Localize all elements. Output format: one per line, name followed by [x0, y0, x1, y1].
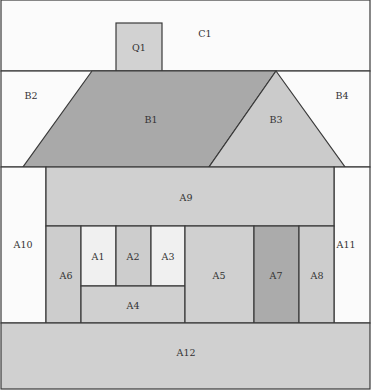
region-label-a8: A8: [310, 270, 324, 281]
house-diagram: C1Q1B2B4B1B3A10A11A9A6A1A2A3A4A5A7A8A12: [0, 0, 375, 392]
region-label-a5: A5: [212, 270, 226, 281]
region-label-a4: A4: [126, 300, 140, 311]
region-sky-region: [1, 0, 370, 71]
region-label-a12: A12: [176, 347, 196, 358]
region-label-a7: A7: [269, 270, 283, 281]
region-label-a10: A10: [13, 239, 33, 250]
region-label-c1: C1: [198, 28, 211, 39]
region-label-b3: B3: [269, 114, 282, 125]
region-label-a9: A9: [179, 192, 193, 203]
region-label-a6: A6: [59, 270, 73, 281]
region-label-b4: B4: [335, 90, 348, 101]
region-label-a3: A3: [161, 251, 175, 262]
region-label-b1: B1: [144, 114, 157, 125]
region-label-b2: B2: [24, 90, 37, 101]
region-label-q1: Q1: [132, 42, 146, 53]
region-label-a2: A2: [126, 251, 140, 262]
diagram-svg: C1Q1B2B4B1B3A10A11A9A6A1A2A3A4A5A7A8A12: [0, 0, 375, 392]
region-label-a11: A11: [336, 239, 356, 250]
region-label-a1: A1: [91, 251, 105, 262]
